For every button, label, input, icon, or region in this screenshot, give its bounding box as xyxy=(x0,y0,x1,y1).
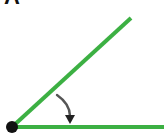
angle-diagram: A xyxy=(0,0,164,136)
vertex-point xyxy=(6,121,18,133)
angled-ray xyxy=(12,18,131,127)
rotation-arrow-icon xyxy=(57,95,75,124)
angle-figure xyxy=(0,0,164,136)
